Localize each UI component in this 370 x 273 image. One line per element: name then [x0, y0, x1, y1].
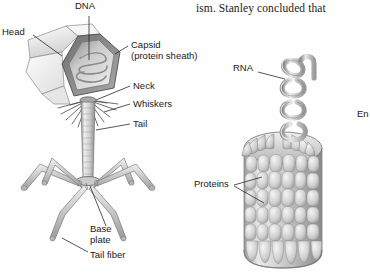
tmv-group: [242, 57, 322, 268]
leader-tail-fiber: [62, 238, 88, 252]
label-rna: RNA: [233, 63, 253, 74]
phage-head-group: [26, 24, 120, 104]
virus-illustration-svg: [0, 0, 370, 273]
label-neck: Neck: [133, 81, 155, 92]
phage-tail-sheath: [81, 102, 95, 178]
label-base-plate-line2: plate: [90, 235, 111, 246]
label-tail: Tail: [133, 119, 147, 130]
rna-helix: [282, 57, 314, 140]
label-dna: DNA: [75, 1, 95, 12]
leader-whiskers: [104, 104, 130, 112]
label-head: Head: [2, 27, 25, 38]
label-proteins: Proteins: [194, 179, 229, 190]
label-clipped-right-edge: En: [357, 108, 370, 121]
body-text-line: ism. Stanley concluded that: [196, 2, 326, 14]
label-tail-fiber: Tail fiber: [90, 250, 125, 261]
leader-rna: [258, 72, 285, 79]
label-capsid-line2: (protein sheath): [131, 51, 198, 62]
label-base-plate-line1: Base: [90, 224, 112, 235]
label-capsid-line1: Capsid: [131, 40, 161, 51]
label-whiskers: Whiskers: [133, 99, 172, 110]
leader-tail: [96, 124, 130, 130]
figure-canvas: [0, 0, 370, 273]
